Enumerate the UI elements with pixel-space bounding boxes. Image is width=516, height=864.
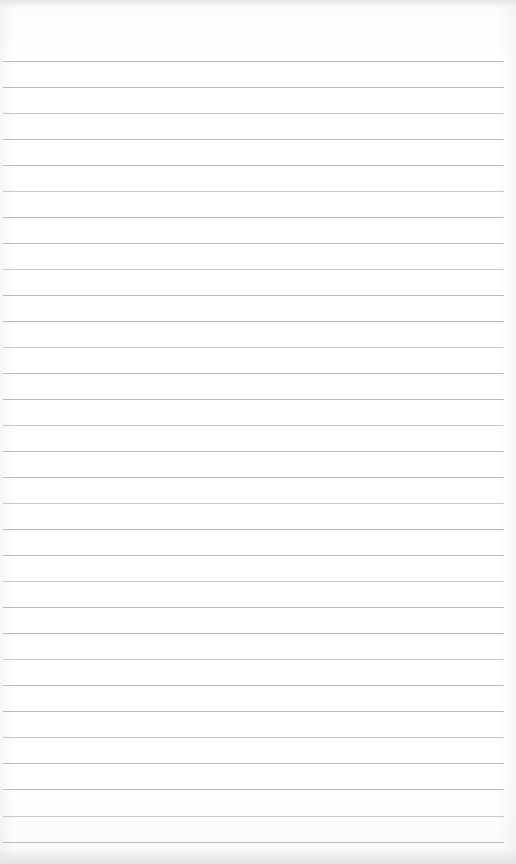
page-text-layer[interactable] (0, 0, 516, 864)
notepad-page (0, 0, 516, 864)
